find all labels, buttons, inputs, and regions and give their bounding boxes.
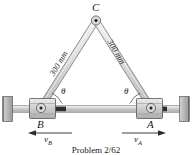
- angle-label-right: θ: [124, 87, 128, 96]
- velocity-arrow-a: [122, 130, 166, 136]
- velocity-label-b: vB: [44, 135, 52, 146]
- wall-support-right: [180, 97, 190, 122]
- figure-caption: Problem 2/62: [0, 146, 192, 155]
- pivot-joint-b: [36, 103, 45, 112]
- linkage-diagram: [0, 0, 192, 155]
- link-bc: [38, 20, 98, 109]
- point-label-b: B: [37, 119, 44, 130]
- pivot-joint-c: [91, 16, 100, 25]
- wall-support-left: [3, 97, 13, 122]
- figure-canvas: C B A 300 mm 300 mm θ θ vB vA Problem 2/…: [0, 0, 192, 155]
- velocity-subscript-a: A: [138, 139, 142, 146]
- point-label-c: C: [92, 2, 99, 13]
- angle-label-left: θ: [61, 87, 65, 96]
- velocity-label-a: vA: [134, 135, 142, 146]
- pivot-joint-a: [146, 103, 155, 112]
- velocity-subscript-b: B: [48, 139, 52, 146]
- point-label-a: A: [147, 119, 154, 130]
